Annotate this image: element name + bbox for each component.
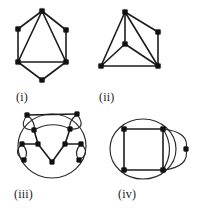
vertices-iii [20, 112, 84, 165]
edge [125, 44, 158, 66]
vertex [122, 9, 127, 14]
vertex [68, 127, 73, 132]
vertex [20, 142, 25, 147]
graph-panel-i [0, 0, 95, 92]
graph-drawing-iv [95, 105, 199, 185]
edge [101, 44, 125, 66]
vertex [32, 128, 37, 133]
edge [38, 144, 52, 162]
edge-arc [34, 125, 70, 130]
vertex [122, 41, 127, 46]
edges-ii [101, 12, 158, 66]
vertex [75, 112, 80, 117]
edge [125, 12, 158, 66]
outer-circle-iii [18, 114, 86, 178]
vertex [121, 167, 126, 172]
outer-cycle-arc [18, 114, 86, 178]
vertex [155, 29, 160, 34]
vertex [160, 126, 165, 131]
panel-label-iv: (iv) [118, 188, 136, 200]
edge [52, 144, 65, 162]
vertex [36, 142, 41, 147]
graph-panel-iii [0, 105, 95, 185]
vertex [15, 59, 20, 64]
vertex [22, 158, 27, 163]
panel-label-ii: (ii) [99, 91, 114, 103]
vertex [39, 77, 44, 82]
graph-drawing-i [0, 0, 95, 92]
vertex [155, 63, 160, 68]
vertex [15, 26, 20, 31]
vertex [98, 63, 103, 68]
vertex [50, 160, 55, 165]
edge [101, 12, 125, 66]
curved-edges-iii [17, 114, 85, 160]
edge [27, 114, 77, 115]
vertex [121, 126, 126, 131]
edge-arc [163, 129, 170, 170]
vertex [160, 167, 165, 172]
edge-arc [163, 149, 187, 170]
vertex [63, 142, 68, 147]
vertex [79, 142, 84, 147]
vertex [77, 158, 82, 163]
lens-arcs-iv [163, 129, 187, 170]
vertex [25, 113, 30, 118]
vertex [63, 27, 68, 32]
vertices-i [15, 8, 68, 82]
panel-label-i: (i) [16, 91, 28, 103]
graph-drawing-ii [95, 0, 199, 92]
graph-panel-iv [95, 105, 199, 185]
edge [125, 12, 158, 32]
edge [42, 11, 66, 62]
vertex [63, 59, 68, 64]
figure-sheet: (i) (ii) [0, 0, 199, 217]
edge [18, 11, 42, 62]
vertex [184, 147, 189, 152]
vertex [39, 8, 44, 13]
edge [18, 62, 42, 80]
panel-label-iii: (iii) [14, 188, 33, 200]
edges-i [18, 11, 66, 80]
graph-panel-ii [95, 0, 199, 92]
square-edges-iv [124, 129, 163, 170]
graph-drawing-iii [0, 105, 95, 185]
edge [42, 62, 66, 80]
